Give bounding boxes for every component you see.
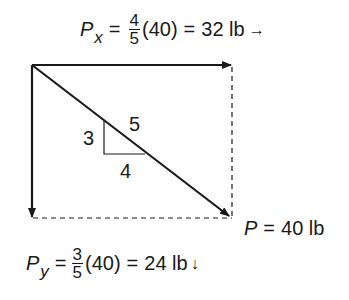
right-arrow-icon: → bbox=[249, 21, 265, 39]
py-symbol: P bbox=[26, 252, 39, 275]
slope-rise-label: 3 bbox=[83, 127, 94, 150]
py-equals: = bbox=[55, 252, 67, 275]
down-arrow-icon: ↓ bbox=[191, 255, 199, 273]
p-value: 40 lb bbox=[281, 217, 324, 240]
py-equals-2: = bbox=[127, 252, 139, 275]
px-equals-2: = bbox=[184, 18, 196, 41]
py-equation: P y = 3 5 (40) = 24 lb ↓ bbox=[26, 246, 199, 281]
p-equals: = bbox=[263, 217, 275, 240]
p-symbol: P bbox=[244, 217, 257, 240]
px-frac-denominator: 5 bbox=[130, 30, 139, 47]
py-subscript: y bbox=[40, 262, 49, 282]
px-result: 32 lb bbox=[201, 18, 244, 41]
py-multiplier: (40) bbox=[85, 252, 121, 275]
slope-run-label: 4 bbox=[120, 160, 131, 183]
p-resultant-arrow bbox=[32, 65, 229, 216]
px-symbol: P bbox=[80, 18, 93, 41]
px-equation: P x = 4 5 (40) = 32 lb → bbox=[80, 12, 265, 47]
px-multiplier: (40) bbox=[142, 18, 178, 41]
py-result: 24 lb bbox=[144, 252, 187, 275]
py-frac-denominator: 5 bbox=[73, 264, 82, 281]
py-fraction: 3 5 bbox=[72, 246, 83, 281]
px-subscript: x bbox=[94, 28, 103, 48]
px-frac-numerator: 4 bbox=[129, 12, 140, 30]
px-fraction: 4 5 bbox=[129, 12, 140, 47]
py-frac-numerator: 3 bbox=[72, 246, 83, 264]
p-equation: P = 40 lb bbox=[244, 217, 324, 240]
px-equals: = bbox=[109, 18, 121, 41]
slope-hypotenuse-label: 5 bbox=[129, 113, 140, 136]
